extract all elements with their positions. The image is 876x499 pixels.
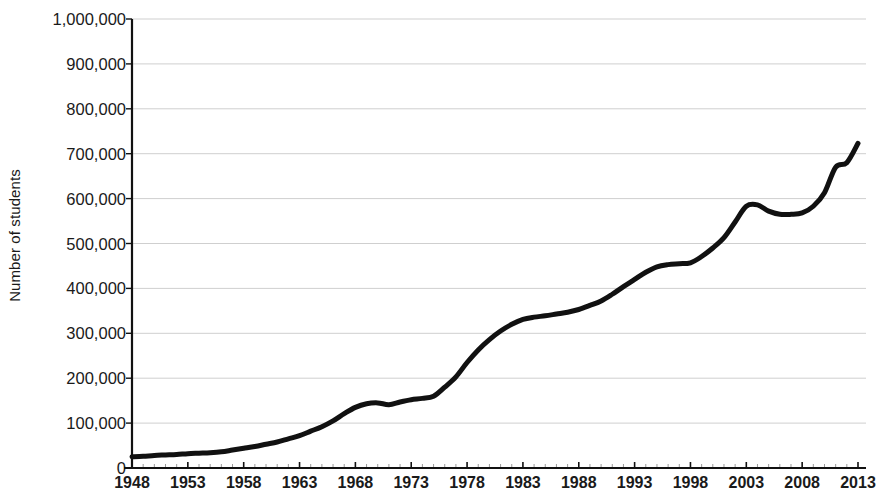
gridlines [132,19,866,423]
x-axis-tick-label: 1968 [338,472,374,494]
x-axis-tick-label: 1993 [617,472,653,494]
x-axis-tick-label: 1948 [114,472,150,494]
x-axis-tick-labels: 1948195319581963196819731978198319881993… [0,472,873,499]
x-axis-tick-label: 1963 [282,472,318,494]
x-axis-tick-label: 2013 [840,472,876,494]
series-line-1 [132,143,858,456]
data-series-group [132,143,858,456]
x-axis-tick-label: 2003 [729,472,765,494]
x-axis-tick-label: 1958 [226,472,262,494]
x-axis-tick-label: 1988 [561,472,597,494]
x-axis-tick-label: 1973 [393,472,429,494]
x-axis-tick-label: 1953 [170,472,206,494]
x-axis-tick-label: 1978 [449,472,485,494]
x-axis-tick-label: 2008 [784,472,820,494]
x-axis-tick-label: 1983 [505,472,541,494]
x-axis-tick-label: 1998 [673,472,709,494]
